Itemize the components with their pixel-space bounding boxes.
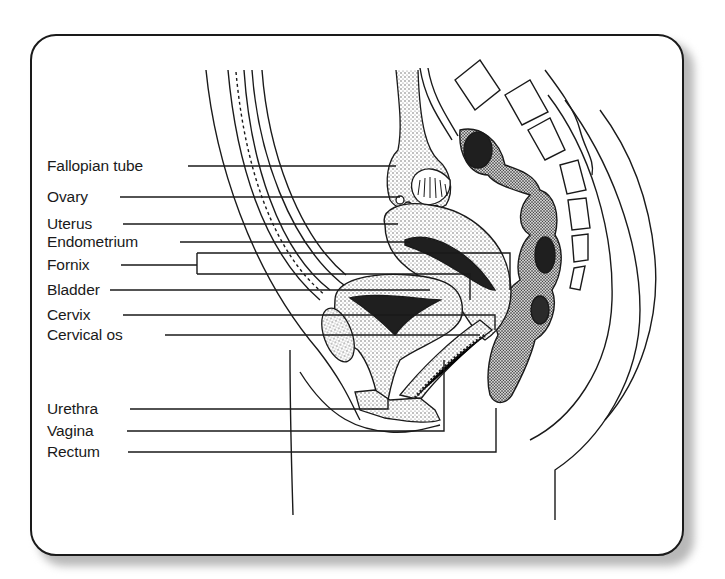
perineum <box>355 390 440 422</box>
label-fallopian-tube: Fallopian tube <box>47 157 143 175</box>
label-endometrium: Endometrium <box>47 233 138 251</box>
label-cervix: Cervix <box>47 306 90 324</box>
fallopian-tube-ovary <box>387 70 450 214</box>
label-cervical-os: Cervical os <box>47 326 123 344</box>
label-ovary: Ovary <box>47 188 88 206</box>
label-urethra: Urethra <box>47 400 98 418</box>
anatomy-illustration <box>0 0 725 579</box>
label-rectum: Rectum <box>47 443 100 461</box>
label-fornix: Fornix <box>47 256 89 274</box>
leader-rectum <box>128 408 496 452</box>
label-vagina: Vagina <box>47 422 94 440</box>
leader-vagina <box>127 360 444 431</box>
label-bladder: Bladder <box>47 281 100 299</box>
label-uterus: Uterus <box>47 215 92 233</box>
